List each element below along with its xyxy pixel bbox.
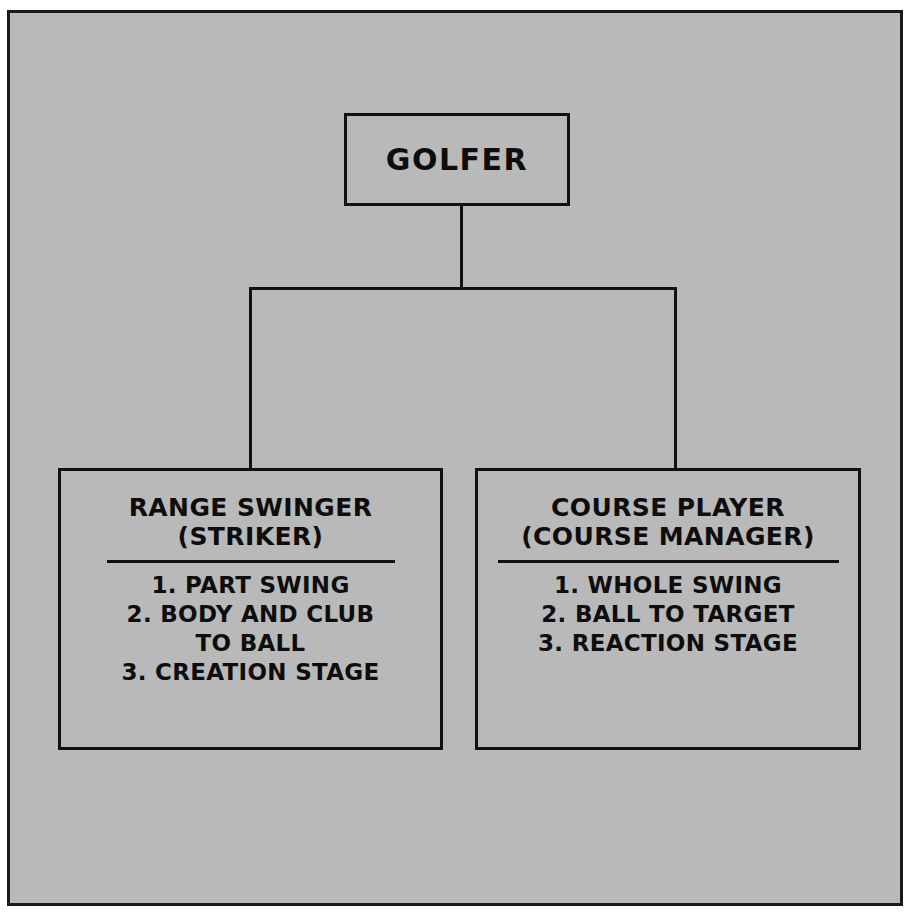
connector-drop-left [249,287,252,471]
list-item: 2. BODY AND CLUB [61,600,440,629]
list-item: 1. WHOLE SWING [478,571,858,600]
connector-drop-right [674,287,677,471]
poster-frame: GOLFER RANGE SWINGER (STRIKER) 1. PART S… [7,10,903,906]
node-course-player-title: COURSE PLAYER [551,493,785,522]
list-item: 2. BALL TO TARGET [478,600,858,629]
node-course-player-divider [498,560,839,563]
list-item: 3. REACTION STAGE [478,629,858,658]
list-item: 3. CREATION STAGE [61,658,440,687]
diagram-page: GOLFER RANGE SWINGER (STRIKER) 1. PART S… [0,0,916,917]
node-range-swinger-title: RANGE SWINGER [129,493,373,522]
node-range-swinger-heading: RANGE SWINGER (STRIKER) [61,493,440,551]
connector-horizontal-bar [249,287,677,290]
node-course-player-heading: COURSE PLAYER (COURSE MANAGER) [478,493,858,551]
node-course-player-list: 1. WHOLE SWING 2. BALL TO TARGET 3. REAC… [478,571,858,658]
node-course-player: COURSE PLAYER (COURSE MANAGER) 1. WHOLE … [475,468,861,750]
node-golfer: GOLFER [344,113,570,206]
connector-stem-vertical [460,206,463,290]
node-range-swinger-subtitle: (STRIKER) [67,522,434,551]
node-range-swinger: RANGE SWINGER (STRIKER) 1. PART SWING 2.… [58,468,443,750]
node-course-player-subtitle: (COURSE MANAGER) [484,522,852,551]
node-range-swinger-divider [107,560,395,563]
node-range-swinger-list: 1. PART SWING 2. BODY AND CLUB TO BALL 3… [61,571,440,687]
node-golfer-title: GOLFER [386,145,528,175]
list-item: 1. PART SWING [61,571,440,600]
list-item: TO BALL [61,629,440,658]
